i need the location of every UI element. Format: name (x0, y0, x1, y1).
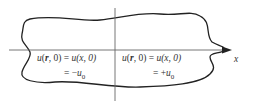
function-u: u (37, 53, 42, 63)
equation-rhs: u(x, 0) (71, 53, 96, 63)
equals-minus: = − (64, 68, 77, 78)
right-region-equation-line1: u(r, 0) = u(x, 0) (122, 54, 181, 64)
left-region-equation-line2: = −u0 (64, 69, 85, 81)
x-axis-label: x (234, 55, 238, 65)
diagram-figure: x u(r, 0) = u(x, 0) = −u0 u(r, 0) = u(x,… (0, 0, 256, 106)
left-region-equation-line1: u(r, 0) = u(x, 0) (37, 54, 96, 64)
x-axis-arrowhead-icon (222, 47, 232, 54)
equation-middle: , 0) = (134, 53, 157, 63)
function-u: u (122, 53, 127, 63)
subscript-zero: 0 (171, 73, 175, 81)
right-region-equation-line2: = +u0 (153, 69, 174, 81)
equation-rhs: u(x, 0) (156, 53, 181, 63)
equation-middle: , 0) = (49, 53, 72, 63)
equals-plus: = + (153, 68, 166, 78)
subscript-zero: 0 (82, 73, 86, 81)
